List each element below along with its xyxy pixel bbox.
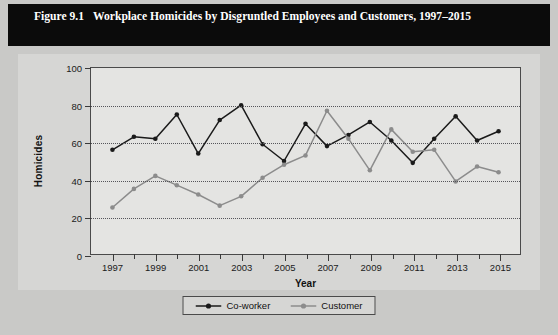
x-tick-label-2007: 2007 bbox=[317, 262, 338, 273]
x-tick-2012 bbox=[436, 254, 437, 259]
y-tick-80 bbox=[85, 106, 91, 107]
data-point bbox=[410, 149, 415, 154]
y-tick-60 bbox=[85, 143, 91, 144]
data-point bbox=[368, 120, 373, 125]
data-point bbox=[110, 148, 115, 153]
gridline-y-40 bbox=[91, 181, 520, 182]
data-point bbox=[475, 138, 480, 143]
x-tick-label-2011: 2011 bbox=[404, 262, 424, 273]
y-tick-100 bbox=[85, 68, 91, 69]
y-tick-0 bbox=[85, 256, 91, 257]
x-tick-2003 bbox=[242, 254, 243, 261]
x-tick-label-2003: 2003 bbox=[231, 262, 252, 273]
data-point bbox=[303, 122, 308, 127]
x-tick-label-1997: 1997 bbox=[102, 262, 123, 273]
x-tick-label-2005: 2005 bbox=[274, 262, 295, 273]
y-tick-label-0: 0 bbox=[77, 251, 82, 262]
data-point bbox=[282, 162, 287, 167]
y-tick-label-100: 100 bbox=[66, 63, 82, 74]
data-point bbox=[368, 168, 373, 173]
x-tick-2010 bbox=[393, 254, 394, 259]
data-point bbox=[196, 192, 201, 197]
x-tick-2001 bbox=[199, 254, 200, 261]
legend-item-customer[interactable]: Customer bbox=[290, 300, 362, 311]
data-point bbox=[410, 161, 415, 166]
plot-area: 0204060801001997199920012003200520072009… bbox=[90, 67, 521, 255]
data-point bbox=[110, 205, 115, 210]
x-tick-1999 bbox=[156, 254, 157, 261]
x-tick-2014 bbox=[479, 254, 480, 259]
data-point bbox=[325, 109, 330, 114]
x-tick-2015 bbox=[500, 254, 501, 261]
data-point bbox=[196, 151, 201, 156]
gridline-y-80 bbox=[91, 106, 520, 107]
x-tick-1998 bbox=[134, 254, 135, 259]
data-point bbox=[496, 170, 501, 175]
x-tick-2006 bbox=[307, 254, 308, 259]
data-point bbox=[132, 135, 137, 140]
x-tick-label-1999: 1999 bbox=[145, 262, 166, 273]
data-point bbox=[453, 114, 458, 119]
legend-label: Co-worker bbox=[227, 300, 271, 311]
x-tick-2004 bbox=[263, 254, 264, 259]
data-point bbox=[132, 187, 137, 192]
legend-swatch-icon bbox=[196, 301, 222, 311]
y-tick-label-40: 40 bbox=[71, 175, 82, 186]
data-point bbox=[175, 112, 180, 117]
x-tick-2000 bbox=[177, 254, 178, 259]
figure-page: Figure 9.1 Workplace Homicides by Disgru… bbox=[0, 0, 558, 335]
y-tick-20 bbox=[85, 218, 91, 219]
data-point bbox=[475, 164, 480, 169]
x-tick-2008 bbox=[350, 254, 351, 259]
chart-card: Homicides 020406080100199719992001200320… bbox=[18, 54, 540, 290]
figure-title-banner: Figure 9.1 Workplace Homicides by Disgru… bbox=[8, 4, 550, 46]
y-tick-label-80: 80 bbox=[71, 100, 82, 111]
gridline-y-20 bbox=[91, 218, 520, 219]
data-point bbox=[239, 194, 244, 199]
x-tick-2009 bbox=[371, 254, 372, 261]
figure-number: Figure 9.1 bbox=[34, 10, 84, 25]
data-point bbox=[217, 118, 222, 123]
data-point bbox=[175, 183, 180, 188]
x-tick-2002 bbox=[220, 254, 221, 259]
data-point bbox=[217, 203, 222, 208]
y-tick-label-20: 20 bbox=[71, 213, 82, 224]
x-tick-label-2009: 2009 bbox=[361, 262, 382, 273]
legend-label: Customer bbox=[321, 300, 362, 311]
y-axis-title: Homicides bbox=[33, 135, 44, 187]
x-tick-1997 bbox=[113, 254, 114, 261]
legend-swatch-icon bbox=[290, 301, 316, 311]
x-tick-label-2015: 2015 bbox=[490, 262, 511, 273]
data-point bbox=[325, 144, 330, 149]
data-point bbox=[432, 148, 437, 153]
figure-caption: Workplace Homicides by Disgruntled Emplo… bbox=[93, 10, 471, 25]
figure-title-inner: Figure 9.1 Workplace Homicides by Disgru… bbox=[8, 10, 471, 25]
x-tick-2011 bbox=[414, 254, 415, 261]
y-tick-40 bbox=[85, 181, 91, 182]
series-overlay bbox=[91, 68, 520, 254]
chart-legend: Co-workerCustomer bbox=[183, 296, 376, 315]
legend-item-co-worker[interactable]: Co-worker bbox=[196, 300, 271, 311]
x-tick-label-2001: 2001 bbox=[188, 262, 209, 273]
x-tick-2013 bbox=[457, 254, 458, 261]
x-axis-title: Year bbox=[90, 278, 521, 289]
x-tick-2007 bbox=[328, 254, 329, 261]
x-tick-2005 bbox=[285, 254, 286, 261]
x-tick-label-2013: 2013 bbox=[447, 262, 468, 273]
data-point bbox=[389, 127, 394, 132]
data-point bbox=[389, 138, 394, 143]
data-point bbox=[153, 174, 158, 179]
gridline-y-60 bbox=[91, 143, 520, 144]
data-point bbox=[346, 136, 351, 141]
y-tick-label-60: 60 bbox=[71, 138, 82, 149]
data-point bbox=[496, 129, 501, 134]
data-point bbox=[432, 136, 437, 141]
data-point bbox=[260, 175, 265, 180]
data-point bbox=[303, 153, 308, 158]
data-point bbox=[153, 136, 158, 141]
